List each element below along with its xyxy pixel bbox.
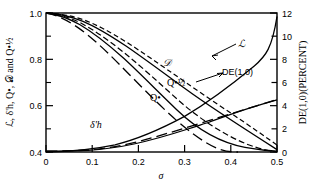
y-right-tick-label: 6 <box>282 78 287 88</box>
figure-container: ℒ 𝒟 Q•½ Q• δ'h DE(1,0) 1.0 0.8 0.6 0.4 1… <box>0 0 320 183</box>
x-tick-labels: 0 0.1 0.2 0.3 0.4 0.5 <box>43 157 283 167</box>
y-right-tick-label: 4 <box>282 101 287 111</box>
x-tick-label: 0.3 <box>178 157 191 167</box>
y-left-axis-title: ℒ, δ'h, Q•, 𝒟 and Q•½ <box>4 37 15 127</box>
y-right-tick-label: 12 <box>282 9 292 19</box>
curve-label-script-l: ℒ <box>238 38 246 49</box>
y-right-tick-labels: 12 10 8 6 4 2 0 <box>282 9 292 158</box>
plot-frame <box>46 13 277 152</box>
chart-plot: ℒ 𝒟 Q•½ Q• δ'h DE(1,0) 1.0 0.8 0.6 0.4 1… <box>0 0 320 183</box>
y-left-tick-label: 0.6 <box>29 101 42 111</box>
x-tick-label: 0.5 <box>271 157 284 167</box>
x-tick-label: 0.1 <box>86 157 99 167</box>
x-tick-label: 0 <box>43 157 48 167</box>
y-right-axis-title: DE(1,0)(PERCENT) <box>297 41 309 125</box>
y-left-tick-label: 0.8 <box>29 55 42 65</box>
x-tick-label: 0.4 <box>225 157 238 167</box>
curve-label-de-1-0: DE(1,0) <box>222 67 253 77</box>
x-tick-label: 0.2 <box>132 157 145 167</box>
y-right-tick-label: 8 <box>282 55 287 65</box>
curve-label-q-half: Q•½ <box>167 77 186 88</box>
y-left-tick-label: 0.4 <box>29 148 42 158</box>
y-left-tick-labels: 1.0 0.8 0.6 0.4 <box>29 9 42 158</box>
curve-label-q-dot: Q• <box>150 92 161 103</box>
curve-label-delta-h: δ'h <box>90 119 102 130</box>
y-right-tick-label: 0 <box>282 148 287 158</box>
x-axis-title: σ <box>159 170 165 181</box>
y-left-tick-label: 1.0 <box>29 9 42 19</box>
y-right-tick-label: 2 <box>282 124 287 134</box>
y-right-tick-label: 10 <box>282 32 292 42</box>
